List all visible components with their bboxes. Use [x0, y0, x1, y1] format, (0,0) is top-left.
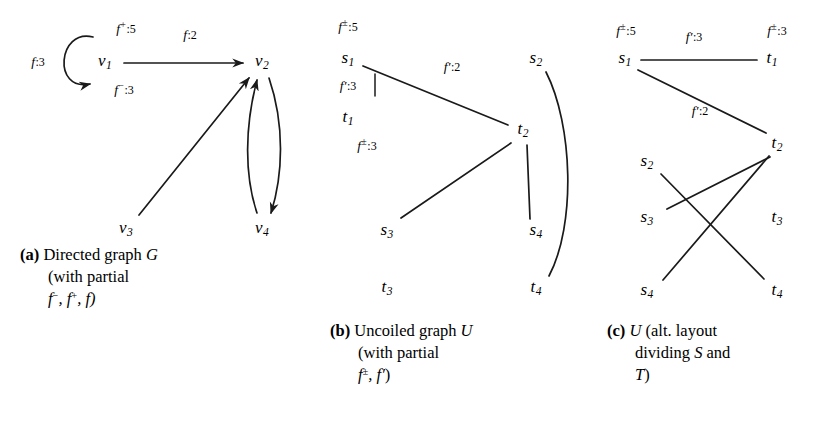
panel-c-edges [0, 0, 825, 330]
edge-label-fpm-3: f±:3 [767, 22, 786, 37]
node-s1: s1 [618, 49, 631, 69]
caption-c-line3: T) [607, 364, 822, 386]
node-t4: t4 [771, 281, 782, 301]
edge-s3-t2 [667, 157, 770, 209]
edge-s4-t2 [663, 156, 769, 280]
edge-label-fprime-2: f′:2 [692, 104, 709, 118]
node-s4: s4 [640, 281, 653, 301]
panel-c-alt-layout: s1 t1 s2 t2 s3 t3 s4 t4 f±:5 f′:3 f±:3 [0, 0, 825, 430]
caption-c-line1-math: U [629, 321, 641, 340]
node-s2: s2 [640, 152, 653, 172]
node-t1: t1 [766, 49, 777, 69]
edge-label-fprime-3: f′:3 [686, 30, 703, 44]
edge-label-fpm-5: f±:5 [616, 22, 635, 37]
caption-panel-c: (c) U (alt. layout dividing S and T) [607, 320, 822, 385]
caption-c-line2: dividing S and [607, 342, 822, 364]
caption-tag-c: (c) [607, 321, 625, 340]
figure-three-graph-panels: v1 v2 v3 v4 f:3 f+:5 f−:3 f:2 (a) Direct… [0, 0, 825, 430]
caption-c-line1: (alt. layout [641, 321, 717, 340]
node-t2: t2 [771, 134, 782, 154]
node-s3: s3 [640, 208, 653, 228]
node-t3: t3 [771, 208, 782, 228]
edge-s1-t2 [638, 70, 766, 133]
